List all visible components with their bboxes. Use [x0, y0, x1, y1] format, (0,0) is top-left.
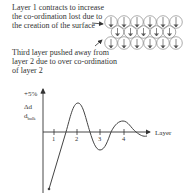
spacing-curve [49, 103, 147, 189]
x-tick-2: 2 [75, 135, 78, 142]
y-tick-label: +5% [24, 90, 37, 98]
surface-data-point [48, 188, 51, 191]
x-tick-4: 4 [122, 135, 126, 142]
y-axis-label-numerator: Δd [24, 103, 33, 111]
x-axis-label: Layer [155, 129, 172, 137]
pointer-arrow-top [92, 23, 103, 24]
pointer-arrow-bottom [95, 40, 102, 46]
x-tick-3: 3 [98, 135, 101, 142]
relaxation-chart: +5% Δd dbulk Layer 1 2 3 4 [24, 89, 172, 193]
x-tick-1: 1 [52, 135, 55, 142]
y-axis-label-denominator: dbulk [24, 112, 36, 121]
atom-row-1 [105, 16, 183, 29]
diagram-canvas: +5% Δd dbulk Layer 1 2 3 4 [0, 0, 187, 193]
